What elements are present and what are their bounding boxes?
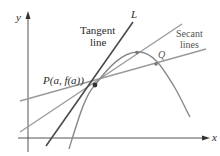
secant-label-line1: Secant (176, 28, 203, 39)
secant-label-line2: lines (180, 39, 199, 50)
x-axis-arrow-icon (202, 136, 210, 141)
tangent-label-line1: Tangent (80, 24, 115, 36)
y-axis-label: y (15, 11, 21, 23)
tangent-secant-diagram: y x Tangent line L Secant lines P(a, f(a… (0, 0, 220, 156)
x-axis-label: x (211, 131, 217, 143)
point-p (93, 83, 98, 88)
point-secant-1 (135, 51, 139, 55)
tangent-label-line2: line (90, 36, 107, 48)
tangent-name-label: L (130, 8, 137, 20)
point-p-label: P(a, f(a)) (42, 74, 84, 87)
point-q-label: Q (158, 49, 166, 60)
function-curve (69, 52, 190, 149)
y-axis-arrow-icon (26, 11, 31, 19)
point-q (154, 62, 158, 66)
